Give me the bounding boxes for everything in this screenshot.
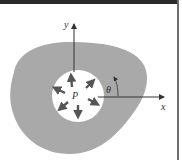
- y-axis-label: y: [63, 19, 69, 30]
- pressure-label: P: [71, 90, 78, 101]
- pressure-hole-diagram: y x θ P: [0, 0, 182, 160]
- diagram-frame: y x θ P: [0, 0, 182, 160]
- theta-label: θ: [106, 84, 111, 95]
- pressure-arrow: [71, 76, 72, 87]
- x-axis-label: x: [160, 101, 166, 112]
